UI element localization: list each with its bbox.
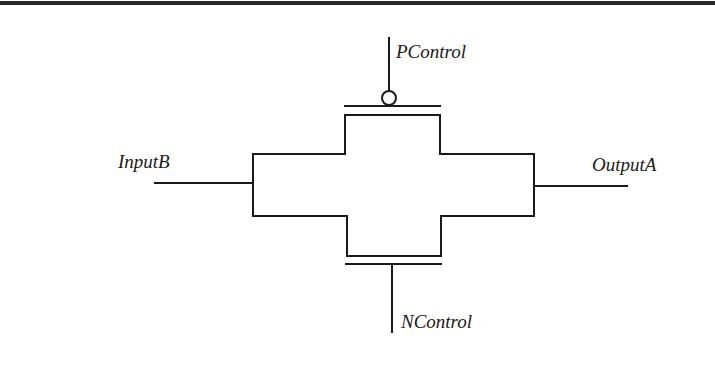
inputb-label: InputB <box>118 152 170 171</box>
pcontrol-label: PControl <box>396 42 466 61</box>
ncontrol-label: NControl <box>401 312 472 331</box>
outputa-label: OutputA <box>592 155 656 174</box>
transmission-gate-diagram <box>0 0 715 370</box>
pmos-inversion-bubble <box>382 91 396 105</box>
channel-body <box>253 115 534 256</box>
